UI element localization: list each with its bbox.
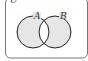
venn-diagram: U A B [0, 0, 88, 61]
universe-label: U [10, 0, 18, 5]
set-a-label: A [33, 11, 41, 21]
set-b-label: B [59, 11, 67, 21]
